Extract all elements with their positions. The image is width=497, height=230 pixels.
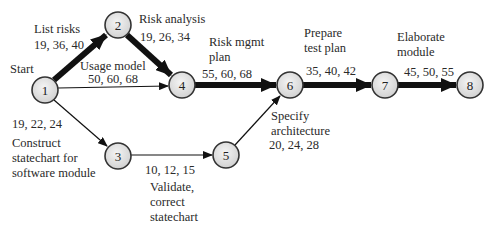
node-7: 7 <box>372 72 398 98</box>
validate-statechart-label: Validate, correct statechart <box>150 180 198 225</box>
elaborate-module-estimates: 45, 50, 55 <box>404 65 454 80</box>
svg-text:5: 5 <box>223 148 230 163</box>
prepare-test-plan-label: Prepare test plan <box>304 26 346 56</box>
elaborate-module-label: Elaborate module <box>397 30 445 60</box>
construct-statechart-estimates: 19, 22, 24 <box>12 117 62 132</box>
validate-statechart-estimates: 10, 12, 15 <box>145 163 195 178</box>
risk-analysis-estimates: 19, 26, 34 <box>140 30 190 45</box>
svg-text:3: 3 <box>115 149 122 164</box>
risk-analysis-label: Risk analysis <box>139 12 205 27</box>
usage-model-estimates: 50, 60, 68 <box>88 72 138 87</box>
prepare-test-plan-estimates: 35, 40, 42 <box>306 64 356 79</box>
svg-text:7: 7 <box>382 78 389 93</box>
specify-architecture-estimates: 20, 24, 28 <box>269 138 319 153</box>
svg-text:1: 1 <box>42 83 49 98</box>
risk-mgmt-plan-label: Risk mgmt plan <box>209 35 264 65</box>
list-risks-label: List risks <box>34 22 80 37</box>
node-3: 3 <box>105 143 131 169</box>
risk-mgmt-plan-estimates: 55, 60, 68 <box>202 67 252 82</box>
node-5: 5 <box>213 142 239 168</box>
node-6: 6 <box>277 72 303 98</box>
node-8: 8 <box>457 72 483 98</box>
svg-text:6: 6 <box>287 78 294 93</box>
node-2: 2 <box>105 12 131 38</box>
node-1: 1 <box>32 77 58 103</box>
svg-text:8: 8 <box>467 78 474 93</box>
construct-statechart-label: Construct statechart for software module <box>12 136 96 181</box>
svg-text:4: 4 <box>179 78 186 93</box>
list-risks-estimates: 19, 36, 40 <box>34 38 84 53</box>
node-4: 4 <box>169 72 195 98</box>
specify-architecture-label: Specify architecture <box>271 109 330 139</box>
pert-diagram: 1 2 3 4 5 6 7 8 Start <box>0 0 497 230</box>
svg-text:2: 2 <box>115 18 122 33</box>
start-label: Start <box>10 62 34 77</box>
